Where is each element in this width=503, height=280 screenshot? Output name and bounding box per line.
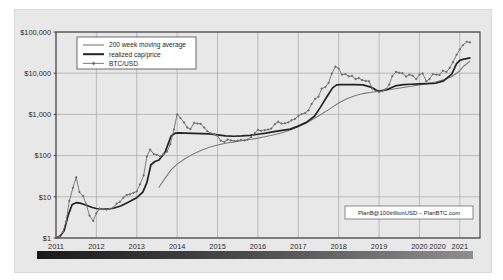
x-tick-label: 2015 (209, 242, 225, 251)
x-tick-label: 2016 (250, 242, 266, 251)
chart-legend: 200 week moving averagerealized cap/pric… (77, 37, 196, 69)
x-tick-label: 2012 (88, 242, 104, 251)
x-tick-label: 2021 (452, 242, 468, 251)
y-tick-label: $10 (39, 193, 51, 202)
watermark-label: PlanB@100trillionUSD – PlanBTC.com (358, 210, 460, 216)
x-tick-label: 2014 (169, 242, 185, 251)
watermark-annotation: PlanB@100trillionUSD – PlanBTC.com (345, 206, 473, 219)
bitcoin-stock-to-flow-chart: $1$10$100$1,000$10,000$100,000 201120122… (15, 10, 491, 272)
x-tick-label: 2011 (48, 242, 64, 251)
x-tick-label: 2018 (330, 242, 346, 251)
legend-item-label: realized cap/price (109, 51, 161, 59)
y-tick-label: $100,000 (20, 28, 51, 37)
legend-item-label: BTC/USD (109, 60, 138, 67)
y-tick-label: $1,000 (28, 110, 51, 119)
y-tick-label: $10,000 (24, 69, 51, 78)
x-tick-label: 2020 (429, 242, 445, 251)
x-tick-label: 2017 (290, 242, 306, 251)
x-tick-label: 2020 (411, 242, 427, 251)
y-tick-label: $100 (35, 151, 51, 160)
x-tick-label: 2013 (129, 242, 145, 251)
halving-color-bar (37, 251, 473, 259)
x-tick-label: 2019 (371, 242, 387, 251)
legend-item-label: 200 week moving average (109, 41, 186, 49)
chart-figure: $1$10$100$1,000$10,000$100,000 201120122… (14, 9, 492, 273)
